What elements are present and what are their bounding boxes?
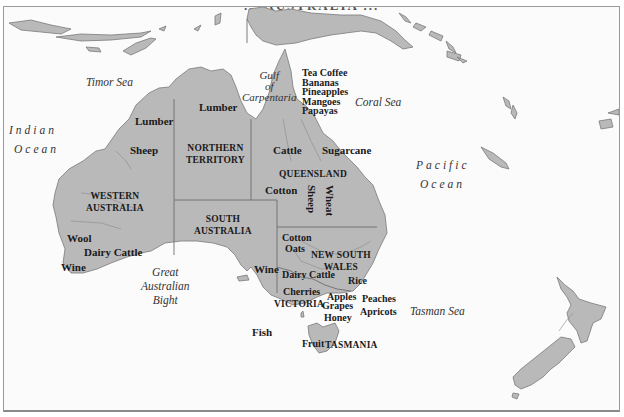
indian-line-2: Ocean [14,143,59,156]
product-lumber-nt: Lumber [199,101,238,113]
island-lesser-sunda [56,31,151,41]
island-stewart [512,393,519,399]
nsw-line-1: NEW SOUTH [311,249,371,261]
island-solomon-5 [447,51,461,61]
island-king [301,311,304,317]
nt-line-1: NORTHERN [186,142,245,154]
product-cherries: Cherries [283,286,320,298]
wa-line-1: WESTERN [86,190,144,202]
bight-line-2: Australian [141,279,190,293]
product-sheep-wa: Sheep [130,144,158,156]
gulf-line-3: Carpentaria [242,92,296,103]
bight-line-1: Great [141,265,190,279]
label-indian-ocean: Indian Ocean [9,124,59,156]
pacific-line-2: Ocean [420,178,470,191]
indian-line-1: Indian [9,124,59,137]
label-queensland: QUEENSLAND [279,168,347,180]
label-pacific-ocean: Pacific Ocean [416,159,470,191]
landmass-nz-north [557,277,606,343]
product-wool: Wool [67,232,91,244]
label-south-australia: SOUTH AUSTRALIA [194,213,252,237]
island-solomon-2 [413,23,426,31]
product-dairy-cattle-nsw: Dairy Cattle [282,269,335,281]
wa-line-2: AUSTRALIA [86,202,144,214]
island-new-caledonia [481,147,509,169]
label-gulf-of-carpentaria: Gulf of Carpentaria [242,70,296,103]
label-coral-sea: Coral Sea [355,96,401,109]
product-dairy-cattle-wa: Dairy Cattle [84,246,142,258]
product-papayas: Papayas [302,106,348,116]
map-frame: ... AUSTRALIA ... [3,6,620,412]
nt-line-2: TERRITORY [186,154,245,166]
product-sugarcane: Sugarcane [322,144,371,156]
pacific-line-1: Pacific [416,159,470,172]
product-wine-wa: Wine [61,261,86,273]
label-western-australia: WESTERN AUSTRALIA [86,190,144,214]
product-grapes: Grapes [322,300,353,312]
product-sheep-qld: Sheep [306,185,318,213]
island-sumba [86,47,101,52]
label-victoria: VICTORIA [274,298,324,310]
label-great-australian-bight: Great Australian Bight [141,265,190,307]
label-northern-territory: NORTHERN TERRITORY [186,142,245,166]
island-small-2 [215,13,221,25]
label-tasmania: TASMANIA [325,339,378,351]
product-wheat: Wheat [324,185,336,216]
product-apricots: Apricots [360,306,397,318]
label-timor-sea: Timor Sea [86,76,133,89]
island-small-3 [159,26,166,31]
island-timor [123,38,156,55]
product-rice: Rice [348,275,367,287]
landmass-nz-south [513,337,575,389]
product-wine-sa: Wine [254,263,279,275]
sa-line-2: AUSTRALIA [194,225,252,237]
island-vanuatu-2 [511,105,517,119]
island-solomon-3 [429,31,443,41]
bight-line-3: Bight [141,293,190,307]
product-cotton-oats: Cotton Oats [282,232,311,254]
product-cotton-qld: Cotton [265,184,297,196]
product-honey: Honey [324,312,352,324]
island-new-guinea [247,7,413,49]
product-cattle-qld: Cattle [273,144,302,156]
island-fiji-2 [608,109,619,115]
island-kangaroo [237,275,249,281]
island-solomon-1 [399,13,411,23]
label-tasman-sea: Tasman Sea [410,305,465,318]
product-fruit: Fruit [302,338,324,350]
product-lumber-wa: Lumber [135,115,174,127]
product-oats: Oats [285,243,311,254]
product-fish: Fish [252,326,272,338]
island-vanuatu-1 [503,97,511,109]
island-small-1 [194,25,201,31]
product-peaches: Peaches [362,293,396,305]
sa-line-1: SOUTH [194,213,252,225]
island-java [9,20,71,34]
product-cotton-nsw: Cotton [282,232,311,243]
island-fiji [599,119,613,129]
product-tropical-list: Tea Coffee Bananas Pineapples Mangoes Pa… [302,68,348,116]
